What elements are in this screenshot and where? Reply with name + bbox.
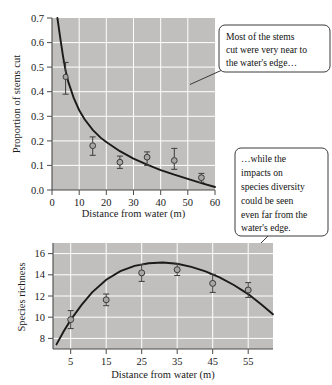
- stems-cut-chart: 0.0 0.1 0.2 0.3 0.4 0.5 0.6 0.7 0 10 20 …: [11, 13, 220, 220]
- richness-x-ticklabel-4: 45: [207, 356, 218, 367]
- stems-ylabel: Proportion of stems cut: [11, 55, 22, 153]
- callout-stems-line-2: the water's edge…: [226, 57, 297, 68]
- stems-x-ticklabel-5: 50: [183, 197, 194, 208]
- callout-diversity-line-0: …while the: [241, 153, 286, 164]
- stems-y-ticklabel-3: 0.3: [31, 111, 44, 122]
- richness-x-ticklabel-1: 15: [101, 356, 112, 367]
- stems-y-ticklabel-2: 0.2: [31, 136, 44, 147]
- stems-xlabel: Distance from water (m): [82, 208, 186, 220]
- callout-diversity-line-3: could be seen: [241, 195, 293, 206]
- stems-y-ticklabel-6: 0.6: [31, 37, 44, 48]
- richness-x-ticklabel-2: 25: [136, 356, 147, 367]
- stems-x-ticklabel-6: 60: [210, 197, 221, 208]
- stems-x-ticklabel-4: 40: [155, 197, 166, 208]
- richness-xlabel: Distance from water (m): [111, 369, 215, 381]
- richness-y-ticklabel-4: 16: [35, 248, 46, 259]
- richness-y-ticklabel-0: 8: [40, 333, 45, 344]
- stems-y-ticklabel-0: 0.0: [31, 185, 44, 196]
- callout-diversity-line-1: impacts on: [241, 167, 283, 178]
- stems-y-ticklabel-4: 0.4: [31, 86, 45, 97]
- stems-x-ticklabel-3: 30: [128, 197, 139, 208]
- stems-x-ticklabel-1: 10: [74, 197, 85, 208]
- figure-svg: 0.0 0.1 0.2 0.3 0.4 0.5 0.6 0.7 0 10 20 …: [0, 0, 332, 385]
- species-richness-chart: 8 10 12 14 16 5 15 25 35 45 55 Distance …: [16, 243, 273, 381]
- callout-diversity-line-2: species diversity: [241, 181, 305, 192]
- richness-y-ticklabel-1: 10: [35, 312, 46, 323]
- callout-stems-line-0: Most of the stems: [226, 31, 295, 42]
- richness-ylabel: Species richness: [16, 262, 27, 331]
- stems-x-ticks: [52, 190, 215, 195]
- stems-y-ticks: [47, 18, 52, 190]
- callout-stems-line-1: cut were very near to: [226, 44, 307, 55]
- stems-y-ticklabel-7: 0.7: [31, 13, 44, 24]
- richness-x-ticklabel-0: 5: [68, 356, 73, 367]
- stems-y-ticklabel-5: 0.5: [31, 62, 44, 73]
- richness-x-ticklabel-5: 55: [243, 356, 254, 367]
- richness-y-ticklabel-3: 14: [35, 269, 46, 280]
- stems-y-ticklabel-1: 0.1: [31, 160, 44, 171]
- callout-diversity-line-4: even far from the: [241, 209, 307, 220]
- stems-x-ticklabel-0: 0: [49, 197, 54, 208]
- richness-x-ticklabel-3: 35: [172, 356, 183, 367]
- callout-diversity-line-5: water's edge.: [241, 222, 291, 233]
- richness-y-ticklabel-2: 12: [35, 291, 46, 302]
- figure-container: 0.0 0.1 0.2 0.3 0.4 0.5 0.6 0.7 0 10 20 …: [0, 0, 332, 385]
- stems-x-ticklabel-2: 20: [101, 197, 112, 208]
- richness-x-ticks: [71, 349, 249, 354]
- richness-y-ticks: [48, 254, 53, 339]
